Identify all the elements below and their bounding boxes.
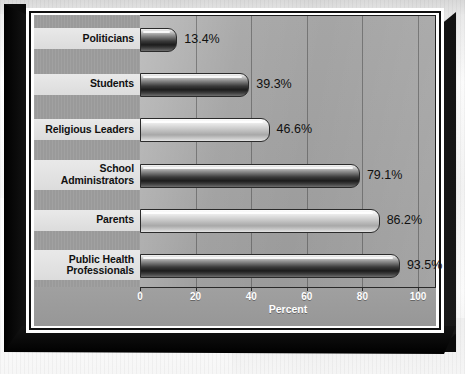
gridline <box>251 16 252 288</box>
x-axis-tick-label: 0 <box>137 291 143 302</box>
bar-row: 86.2% <box>140 209 436 233</box>
bar-highlight <box>143 167 353 169</box>
screenshot-root: PoliticiansStudentsReligious LeadersScho… <box>0 0 465 374</box>
bar-value-label: 46.6% <box>277 122 312 136</box>
category-label: Public Health Professionals <box>66 254 134 277</box>
x-axis-tick-label: 60 <box>301 291 312 302</box>
bar-value-label: 39.3% <box>256 77 291 91</box>
bar <box>140 118 270 142</box>
bar-highlight <box>143 212 373 214</box>
bar-highlight <box>143 257 393 259</box>
bar <box>140 209 380 233</box>
category-label-row: Politicians <box>34 28 140 49</box>
category-label-column: PoliticiansStudentsReligious LeadersScho… <box>34 15 140 326</box>
category-label-row: Students <box>34 74 140 95</box>
category-label-row: School Administrators <box>34 160 140 190</box>
x-axis-tick-label: 20 <box>190 291 201 302</box>
bar-highlight <box>143 76 242 78</box>
category-label-row: Parents <box>34 210 140 231</box>
bar-row: 39.3% <box>140 73 436 97</box>
category-label: School Administrators <box>61 163 134 186</box>
x-axis-tick-label: 100 <box>410 291 427 302</box>
bar-highlight <box>143 31 170 33</box>
x-axis-tick-label: 80 <box>357 291 368 302</box>
bar-row: 46.6% <box>140 118 436 142</box>
category-label-row: Religious Leaders <box>34 119 140 140</box>
gridline <box>196 16 197 288</box>
category-label-row: Public Health Professionals <box>34 250 140 280</box>
plot-sheen-overlay <box>140 16 435 287</box>
bar <box>140 254 400 278</box>
bar-value-label: 79.1% <box>367 168 402 182</box>
bar-value-label: 93.5% <box>407 258 442 272</box>
bar-highlight <box>143 121 263 123</box>
bar <box>140 164 360 188</box>
bar-value-label: 13.4% <box>184 32 219 46</box>
bar-row: 13.4% <box>140 28 436 52</box>
bar-row: 93.5% <box>140 254 436 278</box>
x-axis-title: Percent <box>140 303 436 315</box>
bar-row: 79.1% <box>140 164 436 188</box>
category-label: Religious Leaders <box>45 124 134 136</box>
bar-value-label: 86.2% <box>387 213 422 227</box>
bar <box>140 28 177 52</box>
category-label: Parents <box>96 214 134 226</box>
gridline <box>418 16 419 288</box>
x-axis-tick-label: 40 <box>246 291 257 302</box>
bar <box>140 73 249 97</box>
category-label: Students <box>90 78 134 90</box>
plot-area: 13.4%39.3%46.6%79.1%86.2%93.5% <box>140 15 436 287</box>
gridline <box>307 16 308 288</box>
x-axis-line <box>140 287 436 288</box>
gridline <box>362 16 363 288</box>
category-label: Politicians <box>83 33 134 45</box>
